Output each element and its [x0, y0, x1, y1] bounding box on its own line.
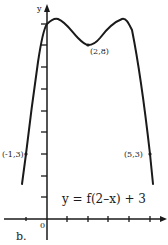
equation-label: y = f(2–x) + 3	[61, 192, 146, 206]
part-label: b.	[16, 230, 27, 243]
point-marker	[148, 152, 151, 155]
point-marker	[24, 152, 27, 155]
y-axis-label: y	[36, 4, 42, 13]
y-axis-arrow-icon	[44, 4, 50, 12]
graph-figure: y 0 (-1,3) (2,8) (5,3) y = f(2–x) + 3 b.	[0, 0, 168, 245]
x-axis-arrow-icon	[160, 216, 167, 222]
point-label-left: (-1,3)	[2, 150, 24, 159]
origin-label: 0	[40, 221, 45, 230]
y-ticks	[41, 24, 47, 197]
point-label-right: (5,3)	[124, 150, 143, 159]
point-label-min: (2,8)	[90, 47, 109, 56]
